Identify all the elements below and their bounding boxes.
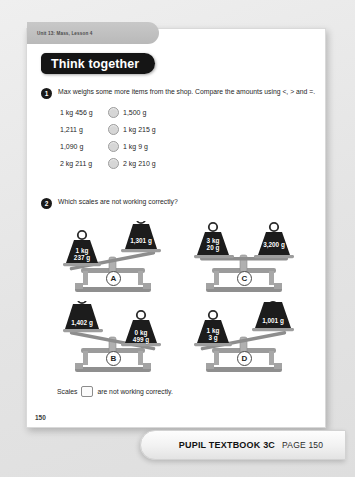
scale-c-letter-badge: C [237,271,252,286]
comparison-answer-circle[interactable] [108,141,119,152]
question-1-bullet: 1 [41,88,52,99]
footer-book-title: PUPIL TEXTBOOK 3C [179,440,275,450]
comparison-left-value: 1,211 g [60,126,104,133]
balance-scale-a: 1 kg 237 g 1,301 g A [51,221,176,299]
footer-page-label: PAGE 150 [282,440,323,450]
comparison-right-value: 1 kg 215 g [123,126,156,133]
comparison-row: 1 kg 456 g 1,500 g [60,104,317,121]
comparison-answer-circle[interactable] [108,158,119,169]
answer-prefix: Scales [57,388,77,395]
comparison-right-value: 2 kg 210 g [123,160,156,167]
question-1: 1 Max weighs some more items from the sh… [41,87,317,172]
unit-tab-label: Unit 13: Mass, Lesson 4 [37,31,93,36]
comparison-left-value: 1 kg 456 g [60,109,104,116]
comparison-right-value: 1,500 g [123,109,146,116]
balance-scale-b: 1,402 g 0 kg 499 g B [51,301,176,379]
scale-d-letter-badge: D [237,351,252,366]
banner-title: Think together [51,57,139,71]
answer-input-box[interactable] [81,386,93,397]
comparison-list: 1 kg 456 g 1,500 g 1,211 g 1 kg 215 g 1,… [58,104,317,172]
balance-scale-d: 1 kg 3 g 1,001 g D [182,301,307,379]
answer-suffix: are not working correctly. [97,388,172,395]
page-number: 150 [35,414,46,421]
scale-a-letter-badge: A [106,271,121,286]
think-together-banner: Think together [41,53,155,74]
question-2-body: Which scales are not working correctly? [58,197,317,209]
comparison-answer-circle[interactable] [108,124,119,135]
question-1-body: Max weighs some more items from the shop… [58,87,317,172]
balance-scale-d-illustration [182,301,307,379]
answer-sentence: Scales are not working correctly. [57,386,173,397]
balance-scales-grid: 1 kg 237 g 1,301 g A [45,221,311,381]
question-2-bullet: 2 [41,198,52,209]
balance-scale-a-illustration [51,221,176,299]
comparison-left-value: 2 kg 211 g [60,160,104,167]
comparison-right-value: 1 kg 9 g [123,143,148,150]
unit-tab: Unit 13: Mass, Lesson 4 [27,22,159,44]
question-2: 2 Which scales are not working correctly… [41,197,317,209]
comparison-answer-circle[interactable] [108,107,119,118]
question-2-text: Which scales are not working correctly? [58,197,317,207]
balance-scale-c: 3 kg 20 g 3,200 g C [182,221,307,299]
balance-scale-b-illustration [51,301,176,379]
comparison-row: 1,211 g 1 kg 215 g [60,121,317,138]
scale-b-letter-badge: B [106,351,121,366]
footer-reference-pill: PUPIL TEXTBOOK 3C PAGE 150 [140,430,346,460]
screenshot-root: Unit 13: Mass, Lesson 4 Think together 1… [0,0,355,477]
textbook-page: Unit 13: Mass, Lesson 4 Think together 1… [26,28,326,428]
question-1-text: Max weighs some more items from the shop… [58,87,317,97]
comparison-row: 2 kg 211 g 2 kg 210 g [60,155,317,172]
comparison-left-value: 1,090 g [60,143,104,150]
balance-scale-c-illustration [182,221,307,299]
comparison-row: 1,090 g 1 kg 9 g [60,138,317,155]
